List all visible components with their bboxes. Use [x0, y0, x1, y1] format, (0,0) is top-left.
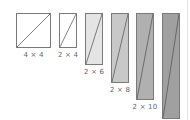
- rectangle-unlabeled: [162, 13, 180, 119]
- diagonal-line: [60, 14, 76, 47]
- diagonal-line: [163, 14, 179, 118]
- diagonal-line: [112, 14, 128, 82]
- diagonal-line: [17, 14, 50, 47]
- dimension-label: 2 × 8: [105, 86, 135, 94]
- diagonal-line: [86, 14, 102, 64]
- dimension-label: 2 × 4: [53, 51, 83, 59]
- rectangle-24: [59, 13, 77, 48]
- rectangle-210: [136, 13, 154, 100]
- rectangle-44: [16, 13, 51, 48]
- rectangle-28: [111, 13, 129, 83]
- diagonal-line: [137, 14, 153, 99]
- right-divider: [187, 0, 188, 120]
- dimension-label: 2 × 10: [130, 103, 160, 111]
- rectangle-26: [85, 13, 103, 65]
- dimension-label: 2 × 6: [79, 68, 109, 76]
- dimension-label: 4 × 4: [19, 51, 49, 59]
